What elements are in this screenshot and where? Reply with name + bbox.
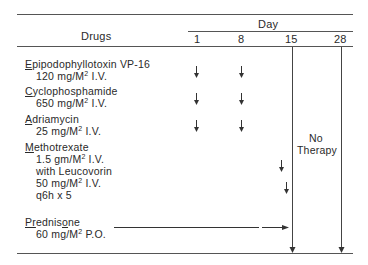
table-top-rule [17,14,353,15]
drug-schedule-leucovorin: q6h x 5 [36,189,72,201]
drug-name-adriamycin: Adriamycin [25,113,79,125]
dose-arrow-epipodophyllotoxin-day8-icon [237,66,246,79]
dose-arrow-cyclophosphamide-day8-icon [237,93,246,106]
day-column-header: Day [258,18,278,30]
dose-arrow-cyclophosphamide-day1-icon [192,93,201,106]
day-15-vertical-line [292,47,293,247]
drug-dose-epipodophyllotoxin: 120 mg/M2 I.V. [36,70,107,82]
drugs-column-header: Drugs [81,30,111,42]
drug-name-cyclophosphamide: Cyclophosphamide [25,85,118,97]
dose-arrow-methotrexate-icon [277,160,286,173]
no-therapy-label-line2: Therapy [297,144,337,156]
prednisone-continuous-arrow-icon [114,224,290,231]
dose-arrow-epipodophyllotoxin-day1-icon [192,66,201,79]
day-28-header: 28 [334,33,347,45]
drug-name-prednisone: Prednisone [25,216,80,228]
drug-name-epipodophyllotoxin: Epipodophyllotoxin VP-16 [25,58,150,70]
table-bottom-rule [17,253,353,254]
header-bottom-rule [17,46,353,47]
dose-arrow-leucovorin-icon [282,182,291,195]
drug-name-methotrexate: Methotrexate [25,141,89,153]
day-15-header: 15 [285,33,298,45]
drug-dose-leucovorin: 50 mg/M2 I.V. [36,177,101,189]
day-8-header: 8 [238,33,244,45]
dose-arrow-adriamycin-day8-icon [237,120,246,133]
drug-note-leucovorin: with Leucovorin [36,165,112,177]
day-1-header: 1 [194,33,200,45]
day-28-vertical-line [341,47,342,247]
drug-dose-adriamycin: 25 mg/M2 I.V. [36,125,101,137]
day-28-arrowhead-icon [337,241,346,254]
drug-dose-prednisone: 60 mg/M2 P.O. [36,228,106,240]
day-subheader-rule [188,31,353,32]
drug-dose-methotrexate: 1.5 gm/M2 I.V. [36,153,104,165]
no-therapy-label-line1: No [309,132,323,144]
dose-arrow-adriamycin-day1-icon [192,120,201,133]
drug-dose-cyclophosphamide: 650 mg/M2 I.V. [36,97,107,109]
day-15-arrowhead-icon [288,241,297,254]
